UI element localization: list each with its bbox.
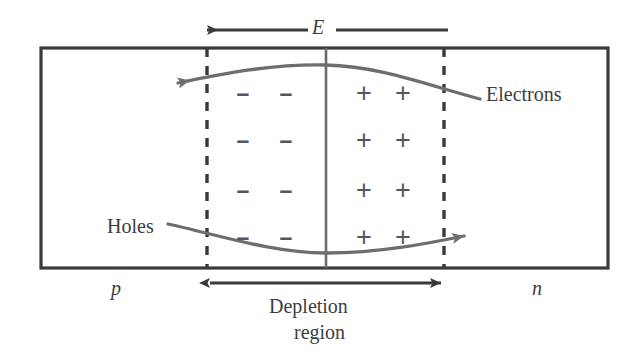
charge-sign-positive: + <box>356 127 372 154</box>
charge-sign-negative: – <box>280 82 293 105</box>
charge-sign-positive: + <box>395 177 411 204</box>
n-region-label: n <box>532 278 542 298</box>
depletion-region-label-line2: region <box>294 322 345 342</box>
charge-sign-negative: – <box>280 226 293 249</box>
pn-junction-diagram: – – – – – – – – + + + + + + + + E Electr… <box>0 0 641 357</box>
charge-sign-positive: + <box>395 80 411 107</box>
charge-sign-positive: + <box>356 80 372 107</box>
charge-sign-negative: – <box>237 226 250 249</box>
charge-sign-negative: – <box>237 129 250 152</box>
p-region-label: p <box>111 278 121 298</box>
charge-sign-negative: – <box>280 179 293 202</box>
charge-sign-positive: + <box>395 127 411 154</box>
depletion-region-label-line1: Depletion <box>269 296 348 316</box>
electric-field-label: E <box>312 17 324 37</box>
hole-flow-curve <box>168 224 464 253</box>
electron-flow-curve <box>178 65 480 99</box>
charge-sign-negative: – <box>237 179 250 202</box>
holes-label: Holes <box>107 216 154 236</box>
charge-sign-positive: + <box>356 224 372 251</box>
electrons-label: Electrons <box>486 84 562 104</box>
charge-sign-negative: – <box>237 82 250 105</box>
charge-sign-positive: + <box>356 177 372 204</box>
charge-sign-positive: + <box>395 224 411 251</box>
charge-sign-negative: – <box>280 129 293 152</box>
